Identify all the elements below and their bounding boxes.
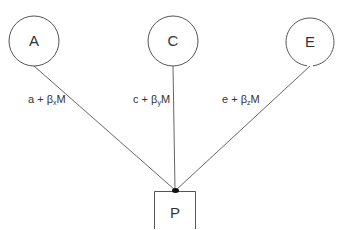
junction-dot <box>172 188 179 193</box>
edge-label-e: e + βzM <box>222 93 260 106</box>
edge-c-to-p <box>173 66 175 190</box>
edge-e-to-p <box>176 66 310 190</box>
edge-a-to-p <box>34 66 175 190</box>
diagram-canvas: A C E a + βxM c + βyM e + βzM P <box>0 0 342 229</box>
edge-label-a: a + βxM <box>28 93 66 106</box>
node-c-label: C <box>168 32 179 49</box>
node-e: E <box>286 18 334 66</box>
node-e-label: E <box>305 33 315 50</box>
node-a-label: A <box>29 32 39 49</box>
edge-label-c: c + βyM <box>133 93 170 107</box>
node-p: P <box>155 192 196 230</box>
node-c: C <box>148 16 198 66</box>
node-a: A <box>9 16 59 66</box>
node-p-label: P <box>170 204 180 221</box>
